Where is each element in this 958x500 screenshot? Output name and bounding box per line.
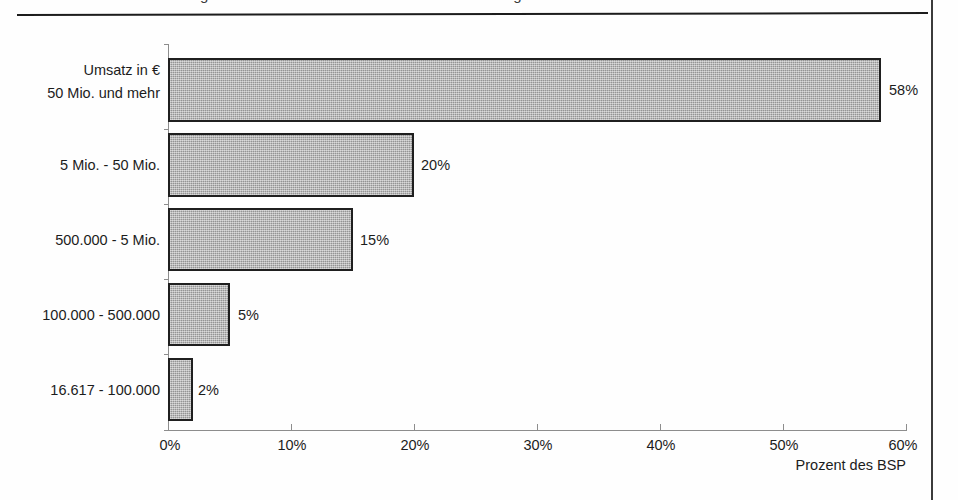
x-axis-tick-label-20: 20% [400, 437, 429, 453]
x-axis-tick-label-10: 10% [277, 437, 306, 453]
bar-chart-plot-area: Umsatz in € 50 Mio. und mehr 5 Mio. - 50… [0, 0, 931, 500]
y-axis-tick [164, 354, 169, 355]
x-axis-tick-label-0: 0% [160, 437, 181, 453]
x-axis-tick [906, 424, 907, 431]
x-axis-tick-label-50: 50% [769, 437, 798, 453]
bar-100000-500000[interactable] [168, 283, 230, 346]
x-axis-tick [537, 424, 538, 431]
x-axis-tick-label-60: 60% [888, 437, 917, 453]
x-axis-tick-label-30: 30% [523, 437, 552, 453]
bar-value-label-3: 15% [360, 232, 389, 248]
bar-umsatz-50-mio-und-mehr[interactable] [168, 58, 881, 122]
bar-500000-5-mio[interactable] [168, 208, 353, 271]
x-axis-title: Prozent des BSP [766, 457, 906, 473]
x-axis-tick [291, 424, 292, 431]
chart-page: Abbildung: Anteile am Steueraufkommen na… [0, 0, 958, 500]
x-axis-tick [414, 424, 415, 431]
bar-value-label-4: 5% [238, 307, 259, 323]
x-axis-tick [660, 424, 661, 431]
y-axis-tick [164, 279, 169, 280]
page-right-border [931, 0, 933, 500]
y-axis-tick [164, 129, 169, 130]
bar-16617-100000[interactable] [168, 358, 193, 421]
y-axis-tick [164, 204, 169, 205]
bar-5-mio-50-mio[interactable] [168, 133, 414, 197]
bar-value-label-2: 20% [421, 157, 450, 173]
y-axis-tick [164, 44, 169, 45]
bar-value-label-1: 58% [889, 82, 918, 98]
bar-value-label-5: 2% [198, 382, 219, 398]
x-axis-tick-label-40: 40% [646, 437, 675, 453]
x-axis-tick [168, 424, 169, 431]
x-axis-tick [783, 424, 784, 431]
